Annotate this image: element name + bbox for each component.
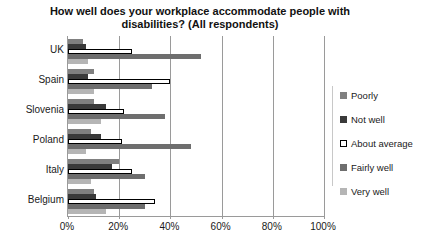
- legend-swatch-icon: [340, 92, 347, 99]
- bar-row: [68, 179, 324, 184]
- chart-title-line-1: How well does your workplace accommodate…: [40, 5, 360, 18]
- chart-legend: PoorlyNot wellAbout averageFairly wellVe…: [340, 90, 440, 210]
- chart-title-line-2: disabilities? (All respondents): [40, 18, 360, 31]
- legend-swatch-icon: [340, 116, 347, 123]
- x-axis-label-60: 60%: [201, 221, 241, 232]
- legend-swatch-icon: [340, 188, 347, 195]
- bar-group-italy: [68, 159, 324, 184]
- legend-label: Fairly well: [351, 162, 393, 173]
- x-axis-label-80: 80%: [252, 221, 292, 232]
- legend-label: Not well: [351, 114, 385, 125]
- bar-row: [68, 149, 324, 154]
- x-axis-label-0: 0%: [47, 221, 87, 232]
- legend-item-about-average[interactable]: About average: [340, 138, 440, 149]
- bar-group-belgium: [68, 189, 324, 214]
- x-tick-100: [324, 216, 325, 219]
- legend-item-not-well[interactable]: Not well: [340, 114, 440, 125]
- bar-group-slovenia: [68, 99, 324, 124]
- legend-swatch-icon: [340, 140, 347, 147]
- chart-title: How well does your workplace accommodate…: [40, 5, 360, 31]
- bar-spain-very-well[interactable]: [68, 89, 94, 94]
- x-axis-label-100: 100%: [303, 221, 343, 232]
- x-axis-label-20: 20%: [98, 221, 138, 232]
- legend-swatch-icon: [340, 164, 347, 171]
- chart-container: How well does your workplace accommodate…: [0, 0, 442, 244]
- bar-italy-very-well[interactable]: [68, 179, 91, 184]
- bar-poland-very-well[interactable]: [68, 149, 86, 154]
- bar-row: [68, 119, 324, 124]
- bar-row: [68, 59, 324, 64]
- x-tick-0: [68, 216, 69, 219]
- legend-item-poorly[interactable]: Poorly: [340, 90, 440, 101]
- bar-belgium-very-well[interactable]: [68, 209, 106, 214]
- bar-group-uk: [68, 39, 324, 64]
- bar-group-spain: [68, 69, 324, 94]
- y-axis-labels: UKSpainSloveniaPolandItalyBelgium: [0, 36, 64, 216]
- y-axis-label-uk: UK: [2, 44, 64, 55]
- y-axis-label-italy: Italy: [2, 164, 64, 175]
- x-tick-60: [222, 216, 223, 219]
- legend-label: About average: [351, 138, 413, 149]
- legend-label: Poorly: [351, 90, 378, 101]
- x-axis-labels: 0%20%40%60%80%100%: [0, 221, 442, 237]
- y-axis-label-slovenia: Slovenia: [2, 104, 64, 115]
- legend-item-fairly-well[interactable]: Fairly well: [340, 162, 440, 173]
- plot-area: [67, 36, 324, 217]
- legend-item-very-well[interactable]: Very well: [340, 186, 440, 197]
- x-tick-20: [119, 216, 120, 219]
- y-axis-label-spain: Spain: [2, 74, 64, 85]
- x-axis-label-40: 40%: [149, 221, 189, 232]
- bar-slovenia-very-well[interactable]: [68, 119, 101, 124]
- legend-label: Very well: [351, 186, 389, 197]
- x-tick-80: [273, 216, 274, 219]
- bar-row: [68, 209, 324, 214]
- bar-row: [68, 89, 324, 94]
- x-tick-40: [170, 216, 171, 219]
- y-axis-label-belgium: Belgium: [2, 194, 64, 205]
- bar-uk-very-well[interactable]: [68, 59, 88, 64]
- y-axis-label-poland: Poland: [2, 134, 64, 145]
- bar-group-poland: [68, 129, 324, 154]
- gridline-100: [324, 36, 325, 216]
- legend-divider: [332, 86, 333, 186]
